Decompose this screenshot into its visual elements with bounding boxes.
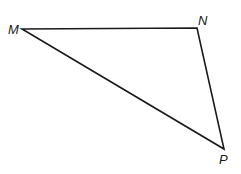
vertex-label-m: M — [8, 23, 19, 36]
vertex-label-n: N — [198, 14, 207, 27]
triangle-mnp — [22, 28, 224, 149]
vertex-label-p: P — [219, 153, 228, 166]
